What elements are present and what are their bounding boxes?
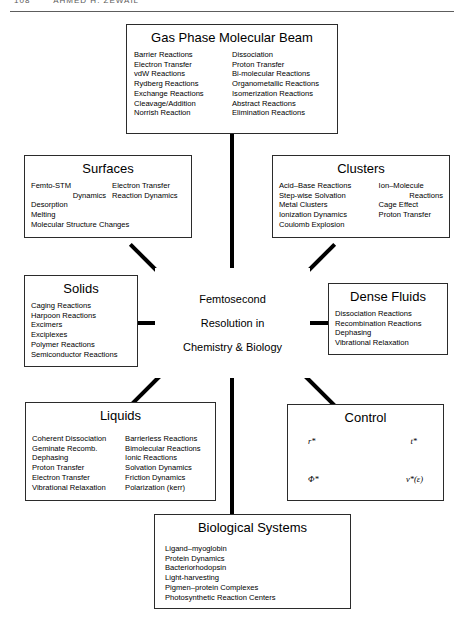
list-item: Bi-molecular Reactions	[232, 69, 330, 79]
connector-center-gas-phase	[230, 130, 234, 272]
list-item: Geminate Recomb.	[32, 444, 125, 454]
box-control: Control r* t* Φ* v*(ε)	[287, 404, 444, 501]
control-symbol-v: v*(ε)	[406, 474, 423, 484]
list-item: Semiconductor Reactions	[31, 350, 130, 360]
list-item: Light-harvesting	[165, 573, 343, 583]
solids-column-1: Caging Reactions Harpoon Reactions Excim…	[31, 301, 130, 359]
list-item: Isomerization Reactions	[232, 89, 330, 99]
clusters-column-1: Acid–Base Reactions Step-wise Solvation …	[279, 181, 379, 230]
liquids-column-1: Coherent Dissociation Geminate Recomb. D…	[32, 434, 125, 492]
list-item: Proton Transfer	[232, 60, 330, 70]
list-item: Dephasing	[32, 453, 125, 463]
running-head-title: AHMED H. ZEWAIL	[53, 0, 139, 5]
list-item: Dissociation	[232, 50, 330, 60]
list-item: Recombination Reactions	[335, 319, 440, 329]
list-item: Cleavage/Addition	[134, 99, 232, 109]
list-item: Polarization (kerr)	[125, 483, 211, 493]
list-item: Melting	[31, 210, 112, 220]
box-solids: Solids Caging Reactions Harpoon Reaction…	[24, 275, 138, 367]
box-dense-fluids: Dense Fluids Dissociation Reactions Reco…	[328, 283, 448, 355]
gas-phase-column-1: Barrier Reactions Electron Transfer vdW …	[134, 50, 232, 118]
list-item: Solvation Dynamics	[125, 463, 211, 473]
biological-column-1: Ligand–myoglobin Protein Dynamics Bacter…	[165, 544, 343, 602]
center-line-2: Resolution in	[201, 311, 265, 335]
control-symbol-phi: Φ*	[308, 474, 319, 484]
list-item: Norrish Reaction	[134, 108, 232, 118]
clusters-column-2: Ion–Molecule Reactions Cage Effect Proto…	[379, 181, 445, 230]
control-symbol-r: r*	[308, 436, 316, 446]
list-item: Reactions	[379, 191, 445, 201]
list-item: Electron Transfer	[112, 181, 187, 191]
list-item: vdW Reactions	[134, 69, 232, 79]
list-item: Ionic Reactions	[125, 453, 211, 463]
list-item: Reaction Dynamics	[112, 191, 187, 201]
list-item: Dynamics	[31, 191, 112, 201]
list-item: Organometallic Reactions	[232, 79, 330, 89]
box-title-liquids: Liquids	[26, 408, 215, 423]
list-item: Step-wise Solvation	[279, 191, 379, 201]
list-item: Metal Clusters	[279, 200, 379, 210]
list-item: Acid–Base Reactions	[279, 181, 379, 191]
box-title-gas-phase: Gas Phase Molecular Beam	[127, 30, 337, 45]
running-head-page-number: 108	[14, 0, 50, 5]
connector-center-control	[304, 375, 337, 408]
list-item: Exciplexes	[31, 330, 130, 340]
box-title-control: Control	[288, 410, 443, 425]
list-item: Abstract Reactions	[232, 99, 330, 109]
surfaces-column-1: Femto-STM Dynamics Desorption Melting Mo…	[31, 181, 112, 230]
list-item: Protein Dynamics	[165, 554, 343, 564]
list-item: Femto-STM	[31, 181, 112, 191]
dense-fluids-column-1: Dissociation Reactions Recombination Rea…	[335, 309, 440, 348]
list-item: Ligand–myoglobin	[165, 544, 343, 554]
control-symbol-grid: r* t* Φ* v*(ε)	[288, 430, 443, 492]
control-symbol-t: t*	[410, 436, 417, 446]
center-line-3: Chemistry & Biology	[183, 335, 282, 359]
list-item: Polymer Reactions	[31, 340, 130, 350]
box-surfaces: Surfaces Femto-STM Dynamics Desorption M…	[24, 155, 192, 238]
list-item: Ionization Dynamics	[279, 210, 379, 220]
list-item: Vibrational Relaxation	[32, 483, 125, 493]
list-item: Excimers	[31, 320, 130, 330]
box-clusters: Clusters Acid–Base Reactions Step-wise S…	[272, 155, 450, 238]
box-biological-systems: Biological Systems Ligand–myoglobin Prot…	[154, 514, 351, 609]
list-item: Rydberg Reactions	[134, 79, 232, 89]
box-title-clusters: Clusters	[273, 161, 449, 176]
list-item: Harpoon Reactions	[31, 311, 130, 321]
list-item: Caging Reactions	[31, 301, 130, 311]
box-gas-phase-molecular-beam: Gas Phase Molecular Beam Barrier Reactio…	[126, 24, 338, 134]
list-item: Proton Transfer	[379, 210, 445, 220]
box-title-dense-fluids: Dense Fluids	[329, 289, 447, 304]
liquids-column-2: Barrierless Reactions Bimolecular Reacti…	[125, 434, 211, 492]
list-item: Bimolecular Reactions	[125, 444, 211, 454]
gas-phase-column-2: Dissociation Proton Transfer Bi-molecula…	[232, 50, 330, 118]
running-head: 108 AHMED H. ZEWAIL	[14, 0, 450, 8]
list-item: Barrierless Reactions	[125, 434, 211, 444]
figure-page: 108 AHMED H. ZEWAIL Femtosecond Resoluti…	[0, 0, 464, 643]
surfaces-column-2: Electron Transfer Reaction Dynamics	[112, 181, 187, 230]
box-liquids: Liquids Coherent Dissociation Geminate R…	[25, 402, 216, 501]
list-item: Exchange Reactions	[134, 89, 232, 99]
box-title-surfaces: Surfaces	[25, 161, 191, 176]
box-title-biological-systems: Biological Systems	[155, 520, 350, 535]
list-item: Friction Dynamics	[125, 473, 211, 483]
header-divider	[10, 11, 454, 12]
list-item: Dephasing	[335, 328, 440, 338]
list-item: Elimination Reactions	[232, 108, 330, 118]
box-title-solids: Solids	[25, 281, 137, 296]
list-item: Coulomb Explosion	[279, 220, 379, 230]
connector-center-biological	[230, 374, 234, 514]
list-item: Photosynthetic Reaction Centers	[165, 593, 343, 603]
list-item: Dissociation Reactions	[335, 309, 440, 319]
list-item: Pigmen–protein Complexes	[165, 583, 343, 593]
center-hub: Femtosecond Resolution in Chemistry & Bi…	[155, 268, 310, 378]
list-item: Proton Transfer	[32, 463, 125, 473]
list-item: Cage Effect	[379, 200, 445, 210]
list-item: Barrier Reactions	[134, 50, 232, 60]
list-item: Vibrational Relaxation	[335, 338, 440, 348]
list-item: Desorption	[31, 200, 112, 210]
list-item: Molecular Structure Changes	[31, 220, 112, 230]
list-item: Bacteriorhodopsin	[165, 563, 343, 573]
list-item: Electron Transfer	[32, 473, 125, 483]
list-item: Electron Transfer	[134, 60, 232, 70]
list-item: Ion–Molecule	[379, 181, 445, 191]
